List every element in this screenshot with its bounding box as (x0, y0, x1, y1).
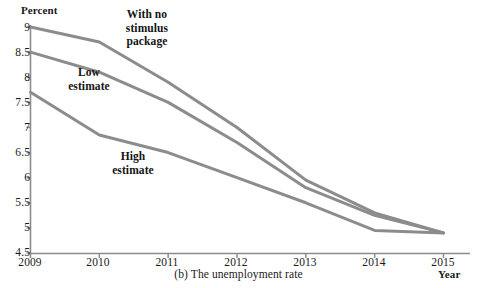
y-tick-label-6: 6 (0, 171, 30, 183)
annotation-high-estimate: High estimate (98, 150, 168, 177)
x-tick-label-2009: 2009 (7, 256, 53, 268)
y-tick-label-7: 7 (0, 121, 30, 133)
line-high-estimate (31, 92, 444, 233)
data-series-group (31, 27, 444, 233)
x-tick-label-2011: 2011 (144, 256, 190, 268)
x-tick-label-2010: 2010 (75, 256, 121, 268)
y-axis-title: Percent (21, 4, 58, 16)
figure-caption: (b) The unemployment rate (0, 268, 477, 280)
plot-area (0, 0, 477, 288)
y-tick-label-9: 9 (0, 21, 30, 33)
annotation-low-estimate: Low estimate (56, 66, 122, 93)
y-tick-label-5-5: 5.5 (0, 196, 30, 208)
x-tick-label-2014: 2014 (351, 256, 397, 268)
x-tick-label-2012: 2012 (213, 256, 259, 268)
unemployment-rate-chart: Percent Year 9 8.5 8 7.5 7 6.5 6 5.5 5 4… (0, 0, 477, 288)
y-tick-label-7-5: 7.5 (0, 96, 30, 108)
x-tick-label-2013: 2013 (282, 256, 328, 268)
y-tick-label-8: 8 (0, 71, 30, 83)
y-tick-label-6-5: 6.5 (0, 146, 30, 158)
x-tick-label-2015: 2015 (420, 256, 466, 268)
y-tick-label-8-5: 8.5 (0, 46, 30, 58)
y-tick-label-5: 5 (0, 221, 30, 233)
annotation-with-no-stimulus-package: With no stimulus package (104, 8, 190, 49)
